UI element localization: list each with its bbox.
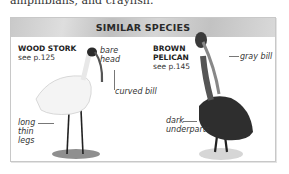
- callout-gray-bill: gray bill: [240, 52, 272, 61]
- callout-long: long: [18, 118, 35, 127]
- callout-head: head: [100, 55, 120, 64]
- brown-pelican-illustration: [181, 28, 261, 162]
- leader-line-underparts: [183, 121, 197, 122]
- callout-bare: bare: [100, 46, 118, 55]
- callout-curved-bill: curved bill: [115, 87, 157, 96]
- callout-underparts: underparts: [166, 125, 210, 134]
- callout-legs: legs: [18, 136, 34, 145]
- leader-line-legs: [38, 123, 54, 124]
- leader-line-gray-bill: [229, 56, 239, 57]
- body-text-line: amphibians, and crayfish.: [10, 0, 153, 7]
- callout-thin: thin: [18, 127, 34, 136]
- similar-species-panel: SIMILAR SPECIES WOOD STORK see p.125 bar…: [10, 17, 276, 162]
- panel-title: SIMILAR SPECIES: [96, 22, 191, 33]
- callout-dark: dark: [166, 116, 184, 125]
